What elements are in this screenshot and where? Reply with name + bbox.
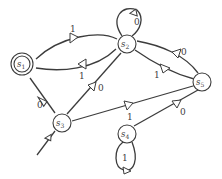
edge-label: 1 (70, 24, 76, 34)
edge-label: 1 (154, 70, 160, 80)
edge-label: 0 (98, 83, 104, 93)
state-s3: s3 (53, 114, 71, 132)
edge-s2-s1: 1 (36, 49, 116, 81)
automaton-diagram: 1 1 0 0 1 0 1 0 (0, 0, 222, 179)
edge-label: 0 (180, 107, 186, 117)
state-s4: s4 (118, 125, 136, 143)
edge-label: 1 (127, 112, 133, 122)
edge-s1-s2: 1 (36, 24, 117, 59)
state-s2: s2 (118, 35, 136, 53)
arrowhead-icon (44, 134, 52, 142)
arrowhead-icon (123, 167, 131, 174)
edge-s3-s2: 0 (67, 53, 121, 114)
edge-s4-s4: 1 (116, 142, 135, 174)
edge-label: 1 (122, 153, 128, 163)
edge-label: 0 (134, 17, 140, 27)
arrowhead-icon (70, 33, 78, 43)
edge-label: 0 (37, 100, 43, 110)
start-arrow (37, 131, 55, 155)
state-s1: s1 (11, 53, 33, 75)
state-s5: s5 (193, 73, 211, 91)
edge-s4-s5: 0 (134, 90, 198, 126)
edge-s1-s3: 0 (30, 78, 55, 113)
edge-label: 1 (79, 71, 85, 81)
edge-label: 0 (181, 47, 187, 57)
arrowhead-icon (124, 101, 133, 110)
arrowhead-icon (160, 64, 170, 73)
edge-s2-s2: 0 (117, 9, 141, 36)
